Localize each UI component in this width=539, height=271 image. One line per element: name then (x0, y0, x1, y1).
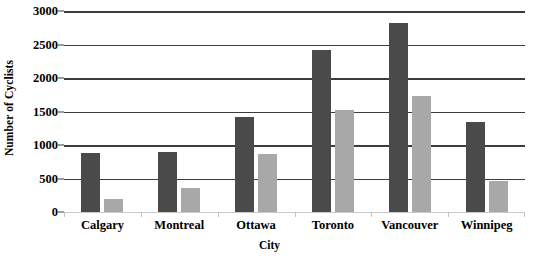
x-axis-tick-label: Montreal (154, 219, 204, 233)
x-axis-tick-mark (141, 212, 142, 217)
x-axis-tick-mark (448, 212, 449, 217)
y-axis-tick-label: 2000 (18, 72, 58, 85)
x-axis-tick-label: Toronto (312, 219, 354, 233)
bar-chart: Number of Cyclists 050010001500200025003… (0, 0, 539, 271)
y-axis-tick-label: 1500 (18, 105, 58, 118)
y-axis-tick-label: 2500 (18, 38, 58, 51)
x-axis-tick-label: Winnipeg (461, 219, 513, 233)
plot-area (64, 11, 525, 212)
y-axis-tick-label: 500 (18, 172, 58, 185)
bar (181, 188, 200, 212)
x-axis-tick-marks (64, 212, 525, 218)
x-axis-tick-label: Ottawa (236, 219, 276, 233)
bar (389, 23, 408, 212)
bar (466, 122, 485, 212)
bar (489, 181, 508, 212)
x-axis-tick-mark (295, 212, 296, 217)
bar (335, 110, 354, 213)
x-axis-title: City (0, 239, 539, 251)
bar (412, 96, 431, 212)
bar (104, 199, 123, 212)
y-axis-tick-labels: 050010001500200025003000 (16, 0, 58, 271)
y-axis-tick-label: 1000 (18, 139, 58, 152)
bar (81, 153, 100, 212)
bar (312, 50, 331, 212)
y-axis-tick-label: 0 (18, 206, 58, 219)
bars-layer (64, 11, 525, 212)
x-axis-tick-mark (371, 212, 372, 217)
y-axis-title-text: Number of Cyclists (3, 59, 15, 155)
x-axis-tick-mark (524, 212, 525, 217)
x-axis-tick-mark (218, 212, 219, 217)
x-axis-tick-label: Vancouver (381, 219, 438, 233)
x-axis-tick-label: Calgary (81, 219, 124, 233)
y-axis-tick-label: 3000 (18, 5, 58, 18)
x-axis-tick-labels: CalgaryMontrealOttawaTorontoVancouverWin… (64, 219, 525, 239)
bar (235, 117, 254, 212)
bar (158, 152, 177, 212)
x-axis-tick-mark (64, 212, 65, 217)
bar (258, 154, 277, 212)
